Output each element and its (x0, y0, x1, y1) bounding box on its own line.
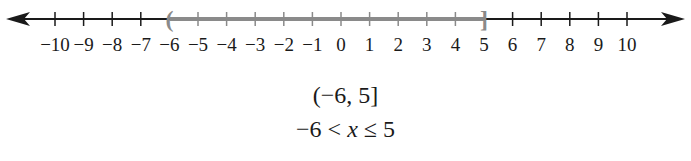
tick-label: 6 (508, 34, 518, 55)
tick-label: −1 (302, 34, 322, 55)
tick-labels: −10−9−8−7−6−5−4−3−2−1012345678910 (40, 34, 636, 55)
tick-label: 5 (479, 34, 489, 55)
tick-label: 4 (451, 34, 461, 55)
open-parenthesis-endpoint: ( (165, 6, 173, 32)
tick-label: 10 (618, 34, 637, 55)
tick-label: −8 (102, 34, 122, 55)
tick-label: 3 (422, 34, 432, 55)
inequality-right: ≤ 5 (358, 116, 395, 142)
number-line: (] −10−9−8−7−6−5−4−3−2−1012345678910 (0, 0, 691, 60)
tick-label: 8 (565, 34, 575, 55)
tick-label: 7 (536, 34, 546, 55)
inequality-variable: x (347, 116, 358, 142)
tick-label: −3 (245, 34, 265, 55)
tick-label: 2 (393, 34, 403, 55)
tick-label: −10 (40, 34, 70, 55)
tick-label: −6 (159, 34, 179, 55)
closed-bracket-endpoint: ] (480, 6, 488, 32)
tick-label: −4 (216, 34, 237, 55)
tick-marks (55, 12, 627, 26)
tick-label: −7 (131, 34, 151, 55)
tick-label: −2 (274, 34, 294, 55)
tick-label: 9 (594, 34, 604, 55)
interval-highlight: (] (165, 6, 488, 32)
tick-label: −9 (73, 34, 93, 55)
tick-label: 0 (336, 34, 346, 55)
inequality-left: −6 < (296, 116, 347, 142)
interval-notation: (−6, 5] (0, 82, 691, 109)
tick-label: −5 (188, 34, 208, 55)
tick-label: 1 (365, 34, 375, 55)
inequality-notation: −6 < x ≤ 5 (0, 116, 691, 143)
